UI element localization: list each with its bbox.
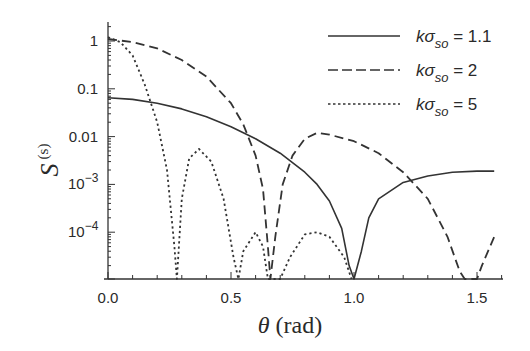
- y-tick-label-base: 10: [68, 175, 85, 192]
- x-tick-label: 0.5: [221, 289, 242, 306]
- series-line-solid: [108, 98, 494, 279]
- legend-value: = 5: [449, 95, 478, 114]
- legend-value: = 1.1: [449, 27, 492, 46]
- legend-subscript: so: [435, 104, 449, 119]
- chart: 0.00.51.01.5 10.10.0110−310−4 S(s) θ (ra…: [0, 0, 530, 351]
- x-axis-title-theta: θ: [258, 312, 270, 338]
- x-tick-labels: 0.00.51.01.5: [98, 289, 488, 306]
- x-tick-label: 1.0: [344, 289, 365, 306]
- y-axis-title-sup: (s): [35, 144, 52, 160]
- x-ticks: [108, 272, 502, 279]
- y-tick-label-base: 0.1: [77, 80, 98, 97]
- y-ticks: [108, 27, 115, 279]
- y-axis-title: S(s): [35, 144, 64, 177]
- y-tick-labels: 10.10.0110−310−4: [68, 32, 99, 240]
- legend-label: kσso = 1.1: [416, 27, 492, 51]
- x-tick-label: 1.5: [467, 289, 488, 306]
- y-tick-label: 10−3: [68, 171, 99, 192]
- series-line-dotted: [108, 37, 352, 279]
- legend-label: kσso = 5: [416, 95, 477, 119]
- legend-value: = 2: [449, 61, 478, 80]
- x-tick-label: 0.0: [98, 289, 119, 306]
- y-tick-label-exponent: −4: [85, 219, 99, 233]
- y-tick-label: 0.1: [77, 80, 98, 97]
- y-tick-label: 0.01: [69, 128, 98, 145]
- legend-subscript: so: [435, 36, 449, 51]
- legend: kσso = 1.1kσso = 2kσso = 5: [328, 27, 492, 119]
- y-tick-label: 10−4: [68, 219, 99, 240]
- y-tick-label-base: 0.01: [69, 128, 98, 145]
- legend-subscript: so: [435, 70, 449, 85]
- y-axis-title-symbol: S: [35, 163, 64, 176]
- y-tick-label-exponent: −3: [85, 171, 99, 185]
- y-tick-label-base: 10: [68, 223, 85, 240]
- legend-label: kσso = 2: [416, 61, 477, 85]
- x-axis-title: θ (rad): [258, 312, 322, 338]
- x-axis-title-unit: (rad): [270, 312, 323, 338]
- axes: 0.00.51.01.5 10.10.0110−310−4: [68, 22, 503, 306]
- y-tick-label-base: 1: [90, 32, 98, 49]
- y-tick-label: 1: [90, 32, 98, 49]
